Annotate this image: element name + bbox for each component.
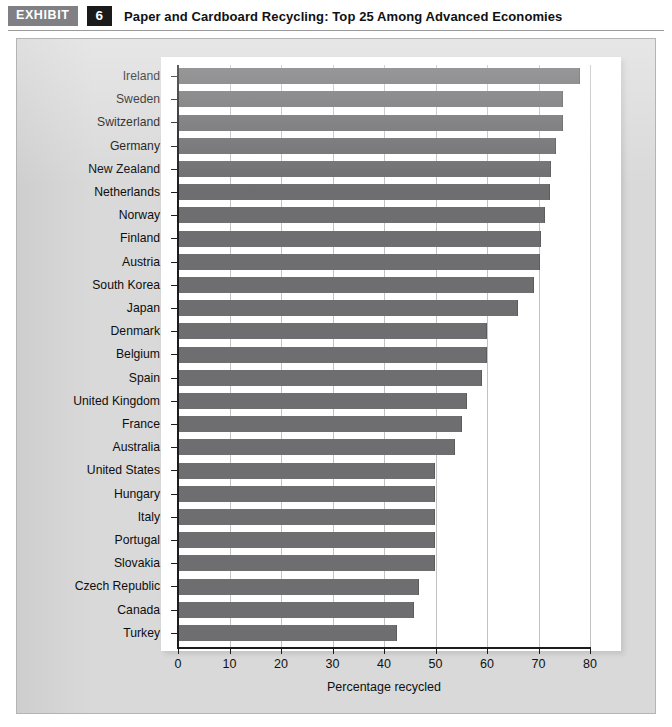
- bar-row: Czech Republic: [17, 575, 657, 597]
- bar-row: United States: [17, 459, 657, 481]
- category-label: Switzerland: [17, 111, 169, 133]
- bar-row: Denmark: [17, 320, 657, 342]
- y-tick-mark: [171, 99, 177, 100]
- y-tick-mark: [171, 517, 177, 518]
- bar-row: Norway: [17, 204, 657, 226]
- bar-row: Ireland: [17, 65, 657, 87]
- x-tick-mark: [487, 649, 488, 654]
- category-label: Portugal: [17, 529, 169, 551]
- category-label: Spain: [17, 367, 169, 389]
- bar-row: Germany: [17, 135, 657, 157]
- bar: [179, 184, 550, 200]
- y-tick-mark: [171, 238, 177, 239]
- bar: [179, 231, 541, 247]
- bar-row: South Korea: [17, 274, 657, 296]
- x-tick-mark: [539, 649, 540, 654]
- category-label: South Korea: [17, 274, 169, 296]
- x-tick-mark: [436, 649, 437, 654]
- bar: [179, 555, 435, 571]
- x-tick-mark: [230, 649, 231, 654]
- bar-row: Spain: [17, 367, 657, 389]
- exhibit-header: EXHIBIT 6 Paper and Cardboard Recycling:…: [0, 0, 672, 32]
- bar: [179, 463, 435, 479]
- category-label: United States: [17, 459, 169, 481]
- x-axis-title: Percentage recycled: [177, 680, 591, 694]
- category-label: Belgium: [17, 343, 169, 365]
- category-label: Hungary: [17, 483, 169, 505]
- y-tick-mark: [171, 610, 177, 611]
- bar-row: Australia: [17, 436, 657, 458]
- bar: [179, 602, 414, 618]
- bar-row: Italy: [17, 506, 657, 528]
- category-label: United Kingdom: [17, 390, 169, 412]
- y-tick-mark: [171, 146, 177, 147]
- x-tick-label: 30: [313, 657, 353, 671]
- bar-row: Portugal: [17, 529, 657, 551]
- bar: [179, 416, 462, 432]
- y-tick-mark: [171, 285, 177, 286]
- exhibit-number-badge: 6: [87, 6, 113, 27]
- x-tick-label: 80: [570, 657, 610, 671]
- bar-row: Belgium: [17, 343, 657, 365]
- x-tick-label: 20: [261, 657, 301, 671]
- bar: [179, 115, 563, 131]
- bar: [179, 486, 435, 502]
- bar: [179, 138, 556, 154]
- bar-row: France: [17, 413, 657, 435]
- bar: [179, 68, 580, 84]
- bar-row: Japan: [17, 297, 657, 319]
- bar-row: Canada: [17, 599, 657, 621]
- bar: [179, 509, 435, 525]
- x-tick-mark: [384, 649, 385, 654]
- bar-row: Finland: [17, 227, 657, 249]
- y-tick-mark: [171, 76, 177, 77]
- bar: [179, 254, 540, 270]
- category-label: Canada: [17, 599, 169, 621]
- category-label: Norway: [17, 204, 169, 226]
- category-label: Germany: [17, 135, 169, 157]
- y-tick-mark: [171, 262, 177, 263]
- category-label: Ireland: [17, 65, 169, 87]
- bar-row: United Kingdom: [17, 390, 657, 412]
- y-tick-mark: [171, 122, 177, 123]
- bar: [179, 579, 419, 595]
- x-tick-mark: [281, 649, 282, 654]
- bar-row: Hungary: [17, 483, 657, 505]
- header-divider: [8, 30, 664, 31]
- x-tick-label: 70: [519, 657, 559, 671]
- x-tick-label: 60: [467, 657, 507, 671]
- category-label: New Zealand: [17, 158, 169, 180]
- category-label: Austria: [17, 251, 169, 273]
- exhibit-page: EXHIBIT 6 Paper and Cardboard Recycling:…: [0, 0, 672, 727]
- x-tick-label: 0: [158, 657, 198, 671]
- y-tick-mark: [171, 447, 177, 448]
- y-tick-mark: [171, 401, 177, 402]
- bar-row: New Zealand: [17, 158, 657, 180]
- category-label: Czech Republic: [17, 575, 169, 597]
- y-tick-mark: [171, 470, 177, 471]
- bar: [179, 277, 534, 293]
- category-label: Netherlands: [17, 181, 169, 203]
- y-tick-mark: [171, 378, 177, 379]
- bar-row: Sweden: [17, 88, 657, 110]
- x-tick-label: 50: [416, 657, 456, 671]
- bar: [179, 625, 397, 641]
- y-tick-mark: [171, 563, 177, 564]
- figure-panel: IrelandSwedenSwitzerlandGermanyNew Zeala…: [16, 38, 656, 714]
- bar: [179, 393, 467, 409]
- category-label: Denmark: [17, 320, 169, 342]
- y-tick-mark: [171, 424, 177, 425]
- x-tick-mark: [333, 649, 334, 654]
- x-tick-label: 40: [364, 657, 404, 671]
- y-tick-mark: [171, 215, 177, 216]
- x-tick-label: 10: [210, 657, 250, 671]
- category-label: Japan: [17, 297, 169, 319]
- category-label: Italy: [17, 506, 169, 528]
- bar: [179, 161, 551, 177]
- bar-row: Switzerland: [17, 111, 657, 133]
- bar: [179, 323, 487, 339]
- y-tick-mark: [171, 192, 177, 193]
- bar-row: Turkey: [17, 622, 657, 644]
- bar: [179, 439, 455, 455]
- bar: [179, 370, 482, 386]
